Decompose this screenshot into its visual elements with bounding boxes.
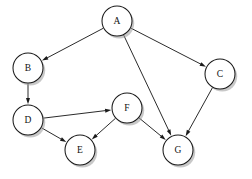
arrowhead-icon (42, 56, 48, 61)
node-label: E (77, 145, 83, 155)
edge-d-to-e[interactable] (41, 128, 66, 142)
nodes-layer: ABCDEFG (13, 6, 237, 168)
graph-canvas: ABCDEFG (0, 0, 252, 179)
node-e[interactable]: E (65, 135, 97, 168)
node-label: C (217, 69, 223, 79)
node-label: B (25, 63, 31, 73)
node-c[interactable]: C (205, 59, 237, 92)
arrowhead-icon (60, 137, 66, 142)
node-g[interactable]: G (163, 135, 195, 168)
graph-diagram: ABCDEFG (0, 0, 252, 179)
arrowhead-icon (26, 98, 30, 104)
node-label: D (25, 115, 32, 125)
node-label: G (175, 145, 182, 155)
arrowhead-icon (186, 130, 191, 136)
arrowhead-icon (167, 129, 171, 135)
arrowhead-icon (105, 109, 111, 113)
node-a[interactable]: A (102, 6, 134, 39)
arrowhead-icon (200, 62, 206, 67)
edge-a-to-b[interactable] (42, 28, 103, 60)
edge-f-to-e[interactable] (92, 118, 116, 139)
edge-d-to-f[interactable] (43, 109, 111, 118)
edge-f-to-g[interactable] (139, 118, 166, 140)
node-label: A (114, 16, 121, 26)
node-b[interactable]: B (13, 53, 45, 86)
edges-layer (26, 28, 213, 142)
node-label: F (124, 103, 129, 113)
edge-b-to-d[interactable] (26, 84, 30, 105)
edge-a-to-c[interactable] (131, 28, 206, 67)
node-d[interactable]: D (13, 105, 45, 138)
node-f[interactable]: F (112, 93, 144, 126)
edge-c-to-g[interactable] (186, 88, 213, 137)
